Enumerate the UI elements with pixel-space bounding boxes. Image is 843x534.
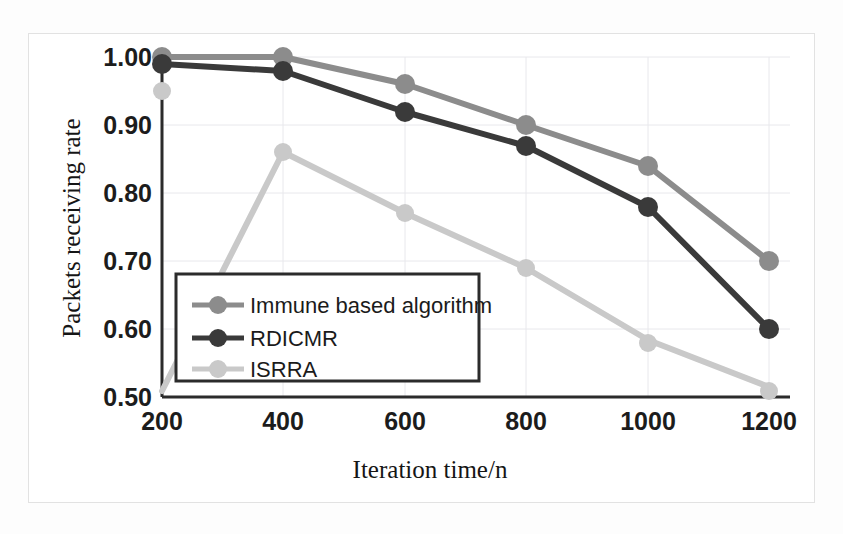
y-tick-labels: 1.00 0.90 0.80 0.70 0.60 0.50 — [103, 43, 152, 411]
data-point — [516, 115, 536, 135]
y-tick-label-1: 1.00 — [103, 43, 152, 71]
x-tick-labels: 200 400 600 800 1000 1200 — [141, 407, 797, 435]
x-tick-label-3: 600 — [384, 407, 426, 435]
legend-swatch-marker — [209, 360, 227, 378]
x-tick-label-6: 1200 — [741, 407, 797, 435]
series-immune-line — [162, 57, 769, 261]
chart-legend[interactable]: Immune based algorithm RDICMR ISRRA — [176, 274, 492, 382]
data-point — [760, 382, 778, 400]
data-point — [759, 319, 779, 339]
y-tick-label-3: 0.80 — [103, 179, 152, 207]
legend-swatch-marker — [209, 296, 227, 314]
x-tick-label-5: 1000 — [620, 407, 676, 435]
data-point — [759, 251, 779, 271]
data-point — [395, 74, 415, 94]
x-tick-label-4: 800 — [505, 407, 547, 435]
data-point — [273, 61, 293, 81]
y-tick-label-5: 0.60 — [103, 315, 152, 343]
data-point — [395, 102, 415, 122]
legend-label-isrra: ISRRA — [250, 357, 318, 382]
y-tick-label-4: 0.70 — [103, 247, 152, 275]
data-point — [153, 82, 171, 100]
data-point — [638, 197, 658, 217]
x-tick-label-2: 400 — [262, 407, 304, 435]
x-axis-title: Iteration time/n — [353, 456, 508, 483]
data-point — [639, 334, 657, 352]
legend-label-rdicmr: RDICMR — [250, 326, 338, 351]
data-point — [517, 259, 535, 277]
data-point — [396, 204, 414, 222]
legend-label-immune-based-algorithm: Immune based algorithm — [250, 293, 492, 318]
data-point — [516, 136, 536, 156]
legend-swatch-marker — [209, 329, 227, 347]
data-point — [152, 54, 172, 74]
chart-page: 1.00 0.90 0.80 0.70 0.60 0.50 200 400 60… — [0, 0, 843, 534]
data-point — [638, 156, 658, 176]
data-point — [274, 143, 292, 161]
y-axis-title: Packets receiving rate — [58, 118, 85, 337]
y-tick-label-2: 0.90 — [103, 111, 152, 139]
line-chart: 1.00 0.90 0.80 0.70 0.60 0.50 200 400 60… — [0, 0, 843, 534]
x-tick-label-1: 200 — [141, 407, 183, 435]
